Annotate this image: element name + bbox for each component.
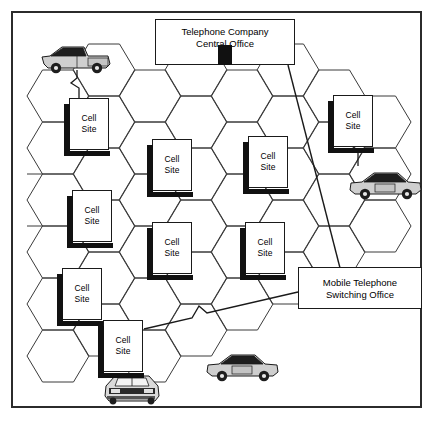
cell-site-box[interactable]: CellSite [152,222,192,274]
vehicle-car-front [105,376,159,404]
cell-site-box[interactable]: CellSite [69,98,109,150]
cell-site-box[interactable]: CellSite [248,136,288,188]
cell-site-box[interactable]: CellSite [245,222,285,274]
cell-site-shadow [147,145,153,197]
link-mtso-to-cell-site-9 [144,292,298,329]
cell-site-shadow [67,196,73,248]
cell-site-shadow-bottom [147,192,193,197]
cell-site-shadow-bottom [57,321,103,326]
cell-site-box[interactable]: CellSite [72,190,112,242]
cell-site-shadow [57,274,63,326]
central-office-box[interactable]: Telephone Company Central Office [155,19,295,65]
cell-site-shadow [240,228,246,280]
cell-site-shadow [147,228,153,280]
cell-site-box[interactable]: CellSite [103,320,143,372]
cell-site-label-line1: Cell [334,110,372,121]
rf-links [71,70,358,166]
cell-site-label-line2: Site [249,162,287,173]
cell-site-label-line2: Site [246,248,284,259]
central-office-connector-icon [218,45,232,65]
cell-site-box[interactable]: CellSite [62,268,102,320]
mtso-box[interactable]: Mobile Telephone Switching Office [298,267,422,309]
mtso-label-line1: Mobile Telephone [299,277,421,289]
cell-site-label-line2: Site [153,165,191,176]
vehicle-car-side-right [350,173,421,199]
cell-site-shadow [98,326,104,378]
cell-site-shadow-bottom [64,151,110,156]
diagram-canvas: Telephone Company Central Office Mobile … [0,0,436,423]
cell-site-label-line1: Cell [246,237,284,248]
cell-site-label-line2: Site [153,248,191,259]
cell-site-label-line1: Cell [70,113,108,124]
cell-site-label-line1: Cell [249,151,287,162]
cell-site-label-line1: Cell [104,335,142,346]
cell-site-label-line1: Cell [153,237,191,248]
cell-site-shadow-bottom [147,275,193,280]
cell-site-label-line2: Site [334,121,372,132]
cell-site-label-line2: Site [73,216,111,227]
cell-site-shadow [64,104,70,156]
cell-site-label-line2: Site [104,346,142,357]
cell-site-shadow-bottom [328,148,374,153]
cell-site-label-line1: Cell [153,154,191,165]
cell-site-box[interactable]: CellSite [152,139,192,191]
cell-site-shadow-bottom [240,275,286,280]
cell-site-label-line2: Site [70,124,108,135]
cell-site-shadow-bottom [98,373,144,378]
cell-site-shadow-bottom [243,189,289,194]
cell-site-shadow-bottom [67,243,113,248]
mtso-label-line2: Switching Office [299,289,421,301]
cell-site-label-line1: Cell [63,283,101,294]
cell-site-label-line2: Site [63,294,101,305]
vehicle-pickup-truck-side [42,47,110,73]
cell-site-box[interactable]: CellSite [333,95,373,147]
cell-site-shadow [243,142,249,194]
central-office-label-line1: Telephone Company [156,26,294,38]
vehicle-car-side-bottom [207,355,278,381]
cell-site-label-line1: Cell [73,205,111,216]
cell-site-shadow [328,101,334,153]
